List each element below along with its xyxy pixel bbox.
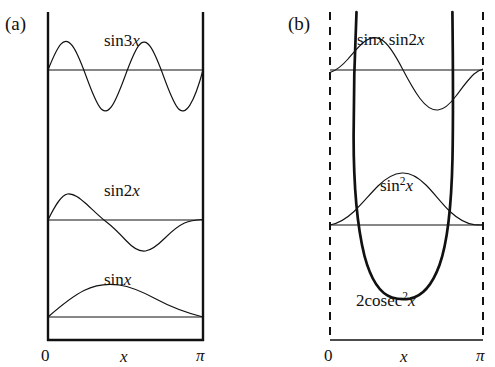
curve-sin3x-label-prefix: sin3 [104,31,132,50]
math-figure: (a) sin3x sin2x sinx [0,0,495,367]
curve-sin-squared-x-label-prefix: sin [380,176,400,195]
curve-sin3x [48,41,203,111]
panel-a-label: (a) [5,13,26,35]
curve-sinx-sin2x-label-prefix: sin [357,30,377,49]
curve-sinx-sin2x-label-var2: x [416,30,425,49]
curve-sin2x [48,194,203,251]
curve-sinx-label-var: x [123,270,132,289]
curve-sin3x-label-var: x [131,31,140,50]
panel-b-xaxis-label: x [399,347,408,366]
curve-sinx-label: sinx [104,270,132,289]
panel-b: (b) sinx sin2x sin2x 2cosec2x [288,12,485,366]
curve-sinx [48,284,203,317]
panel-b-xtick-0: 0 [324,346,333,365]
curve-sin2x-label: sin2x [104,181,140,200]
panel-a-xtick-0: 0 [41,346,50,365]
curve-sin3x-label: sin3x [104,31,140,50]
curve-2cosec-squared-x-label: 2cosec2x [356,290,416,310]
curve-sin-squared-x-label: sin2x [380,175,414,195]
curve-sin2x-label-prefix: sin2 [104,181,132,200]
curve-2cosec-squared-x-label-prefix: 2cosec [356,291,403,310]
panel-a: (a) sin3x sin2x sinx [5,12,205,366]
curve-sin-squared-x-label-var: x [405,176,414,195]
curve-sin2x-label-var: x [131,181,140,200]
curve-sinx-sin2x-label: sinx sin2x [357,30,425,49]
curve-sinx-sin2x-label-prefix2: sin2 [384,30,417,49]
panel-a-xaxis-label: x [119,347,128,366]
curve-2cosec-squared-x [354,12,453,299]
panel-b-xtick-pi: π [476,346,485,365]
curve-sinx-label-prefix: sin [104,270,124,289]
panel-a-xtick-pi: π [196,346,205,365]
curve-2cosec-squared-x-label-var: x [407,291,416,310]
figure-root: (a) sin3x sin2x sinx [0,0,495,367]
panel-b-label: (b) [288,13,310,35]
